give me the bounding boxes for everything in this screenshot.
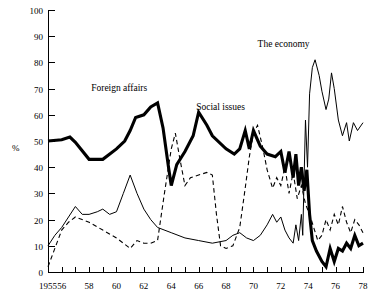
x-tick-label: 56 <box>57 281 67 291</box>
x-tick-label: 58 <box>85 281 95 291</box>
x-tick-label: 60 <box>112 281 122 291</box>
x-tick-label: 68 <box>222 281 232 291</box>
series-label-the-economy: The economy <box>258 39 310 49</box>
y-tick-label: 100 <box>30 6 44 16</box>
series-annotations-group: Foreign affairsThe economySocial issues <box>91 39 310 112</box>
x-tick-label: 76 <box>331 281 341 291</box>
y-tick-label: 70 <box>34 85 44 95</box>
x-tick-label: 72 <box>276 281 285 291</box>
line-chart-figure: 0102030405060708090100195556586062646668… <box>0 0 371 298</box>
y-tick-label: 20 <box>34 216 44 226</box>
axes-group <box>49 10 364 273</box>
x-tick-label: 62 <box>139 281 148 291</box>
x-tick-label: 1955 <box>39 281 58 291</box>
x-tick-label: 64 <box>167 281 177 291</box>
x-tick-label: 74 <box>304 281 314 291</box>
x-tick-label: 66 <box>194 281 204 291</box>
series-label-foreign-affairs: Foreign affairs <box>91 83 147 93</box>
x-tick-label: 70 <box>249 281 259 291</box>
y-tick-label: 0 <box>39 268 44 278</box>
y-axis-title: % <box>12 143 20 153</box>
y-tick-label: 60 <box>34 111 44 121</box>
x-tick-label: 78 <box>359 281 369 291</box>
chart-canvas: 0102030405060708090100195556586062646668… <box>0 0 371 298</box>
y-tick-label: 40 <box>34 163 44 173</box>
y-tick-label: 10 <box>34 242 44 252</box>
y-tick-label: 90 <box>34 32 44 42</box>
series-label-social-issues: Social issues <box>196 102 245 112</box>
y-tick-label: 80 <box>34 58 44 68</box>
y-tick-label: 50 <box>34 137 44 147</box>
y-tick-label: 30 <box>34 189 44 199</box>
